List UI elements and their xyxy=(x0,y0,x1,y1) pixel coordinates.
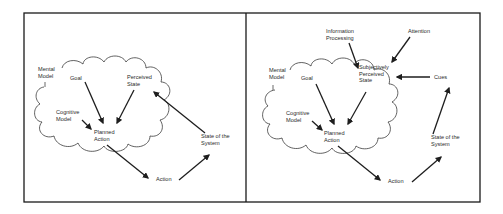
label-mental-model: Mental Model xyxy=(269,67,287,80)
label-state-of-system: State of the System xyxy=(201,133,231,146)
arrow-action-to-state-of-system xyxy=(412,157,441,182)
label-planned-action: Planned Action xyxy=(94,129,116,142)
label-cues: Cues xyxy=(434,74,447,80)
arrow-cognitive-model-to-planned-action xyxy=(82,120,91,129)
arrow-perceived-state-to-planned-action xyxy=(348,92,366,124)
arrow-state-of-system-to-cues xyxy=(433,88,449,134)
arrow-goal-to-planned-action xyxy=(316,84,334,124)
label-mental-model: Mental Model xyxy=(38,66,56,79)
arrow-action-to-state-of-system xyxy=(179,155,209,180)
arrow-perceived-state-to-planned-action xyxy=(117,90,134,123)
arrow-cognitive-model-to-planned-action xyxy=(312,121,322,130)
arrow-goal-to-planned-action xyxy=(85,82,103,123)
label-cognitive-model: Cognitive Model xyxy=(286,110,311,123)
arrow-attention-to-perceived-state xyxy=(392,37,410,62)
left-panel: Mental Model Goal Perceived State Cognit… xyxy=(35,56,232,182)
right-panel: Information Processing Attention Mental … xyxy=(263,28,462,184)
arrow-planned-action-to-action xyxy=(338,146,380,180)
label-cognitive-model: Cognitive Model xyxy=(56,109,81,122)
label-subjectively-perceived-state: Subjectively Perceived State xyxy=(359,64,390,83)
arrow-state-of-system-to-perceived-state xyxy=(154,92,205,133)
label-information-processing: Information Processing xyxy=(326,28,356,41)
diagram-canvas: Mental Model Goal Perceived State Cognit… xyxy=(0,0,503,214)
label-goal: Goal xyxy=(301,75,313,81)
label-attention: Attention xyxy=(408,28,430,34)
arrow-planned-action-to-action xyxy=(107,145,148,178)
label-planned-action: Planned Action xyxy=(324,130,346,143)
arrow-information-processing-to-perceived-state xyxy=(349,43,358,68)
label-state-of-system: State of the System xyxy=(431,134,461,147)
label-perceived-state: Perceived State xyxy=(127,74,153,87)
label-goal: Goal xyxy=(70,75,82,81)
label-action: Action xyxy=(388,178,404,184)
diagram-frame xyxy=(24,13,480,202)
label-action: Action xyxy=(156,176,172,182)
